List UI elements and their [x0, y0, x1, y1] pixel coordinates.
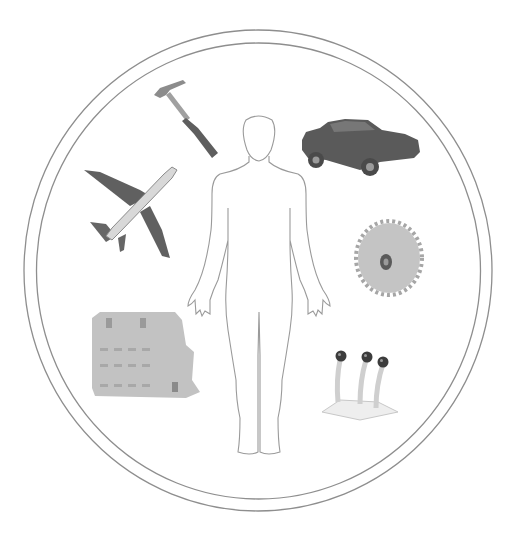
car-icon	[302, 119, 420, 176]
airplane-icon	[84, 167, 177, 258]
human-figure-outline	[188, 116, 330, 454]
building-icon	[92, 312, 200, 398]
caption	[0, 520, 527, 540]
hammer-icon	[154, 80, 218, 158]
gear-icon	[356, 221, 422, 295]
control-levers-icon	[322, 351, 398, 421]
diagram-canvas	[0, 0, 527, 543]
